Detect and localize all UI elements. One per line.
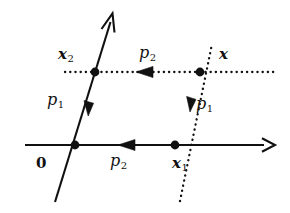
label-p2-bottom: p2 xyxy=(110,153,127,171)
dotted-diagonal-line xyxy=(180,44,212,201)
p1-solid-direction-arrowhead-icon xyxy=(84,101,94,116)
label-p2-top: p2 xyxy=(139,45,156,63)
diagram-canvas xyxy=(0,0,290,213)
label-p2-bottom-subscript: 2 xyxy=(121,160,127,171)
label-x: x xyxy=(219,46,228,62)
label-x1-subscript: 1 xyxy=(181,162,187,173)
lattice-diagram: x2 p2 x p1 p1 0 p2 x1 xyxy=(0,0,290,213)
point-x1 xyxy=(171,141,180,150)
label-x-base: x xyxy=(219,45,228,63)
p1-dotted-direction-arrowhead-icon xyxy=(187,96,196,112)
label-x2-subscript: 2 xyxy=(67,53,73,64)
point-x2 xyxy=(91,68,100,77)
solid-horizontal-axis xyxy=(25,138,275,152)
label-x1: x1 xyxy=(172,155,188,173)
point-x xyxy=(196,68,205,77)
label-x2-base: x xyxy=(58,45,67,63)
label-x1-base: x xyxy=(172,154,181,172)
label-p2-bottom-base: p xyxy=(110,151,120,170)
label-p1-left: p1 xyxy=(47,92,64,110)
label-p1-left-base: p xyxy=(47,90,57,109)
label-p2-top-subscript: 2 xyxy=(150,52,156,63)
label-p1-right-base: p xyxy=(196,94,206,113)
p2-dotted-direction-arrowhead-icon xyxy=(136,66,153,77)
label-p1-left-subscript: 1 xyxy=(58,99,64,110)
label-p1-right: p1 xyxy=(196,96,213,114)
label-origin-base: 0 xyxy=(36,154,46,172)
p2-solid-direction-arrowhead-icon xyxy=(118,140,135,151)
label-p1-right-subscript: 1 xyxy=(207,103,213,114)
label-p2-top-base: p xyxy=(139,43,149,62)
label-x2: x2 xyxy=(58,46,74,64)
point-origin xyxy=(71,141,80,150)
label-origin: 0 xyxy=(36,155,46,171)
dotted-diagonal-line-segment xyxy=(180,44,212,201)
